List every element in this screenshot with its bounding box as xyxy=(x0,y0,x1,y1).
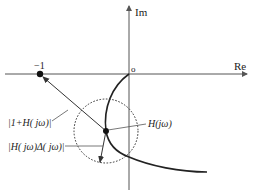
real-axis-label: Re xyxy=(234,60,246,72)
distance-vector xyxy=(43,77,106,131)
uncertainty-radius-label: |H( jω)Δ( jω)| xyxy=(8,141,65,153)
distance-leader-line xyxy=(52,110,68,121)
nyquist-point-label: H(jω) xyxy=(147,118,172,130)
imag-axis-label: Im xyxy=(135,6,148,18)
nyquist-point-marker xyxy=(103,128,109,134)
critical-point-label: −1 xyxy=(34,60,45,71)
nyquist-diagram: Im Re o −1 |1+H( jω)| |H( jω)Δ( jω)| H(j… xyxy=(0,0,253,195)
distance-to-critical-label: |1+H( jω)| xyxy=(8,117,51,129)
critical-point-marker xyxy=(37,71,43,77)
uncertainty-radius-vector xyxy=(100,131,106,162)
nyquist-point-leader-line xyxy=(108,124,146,130)
origin-label: o xyxy=(131,64,136,74)
